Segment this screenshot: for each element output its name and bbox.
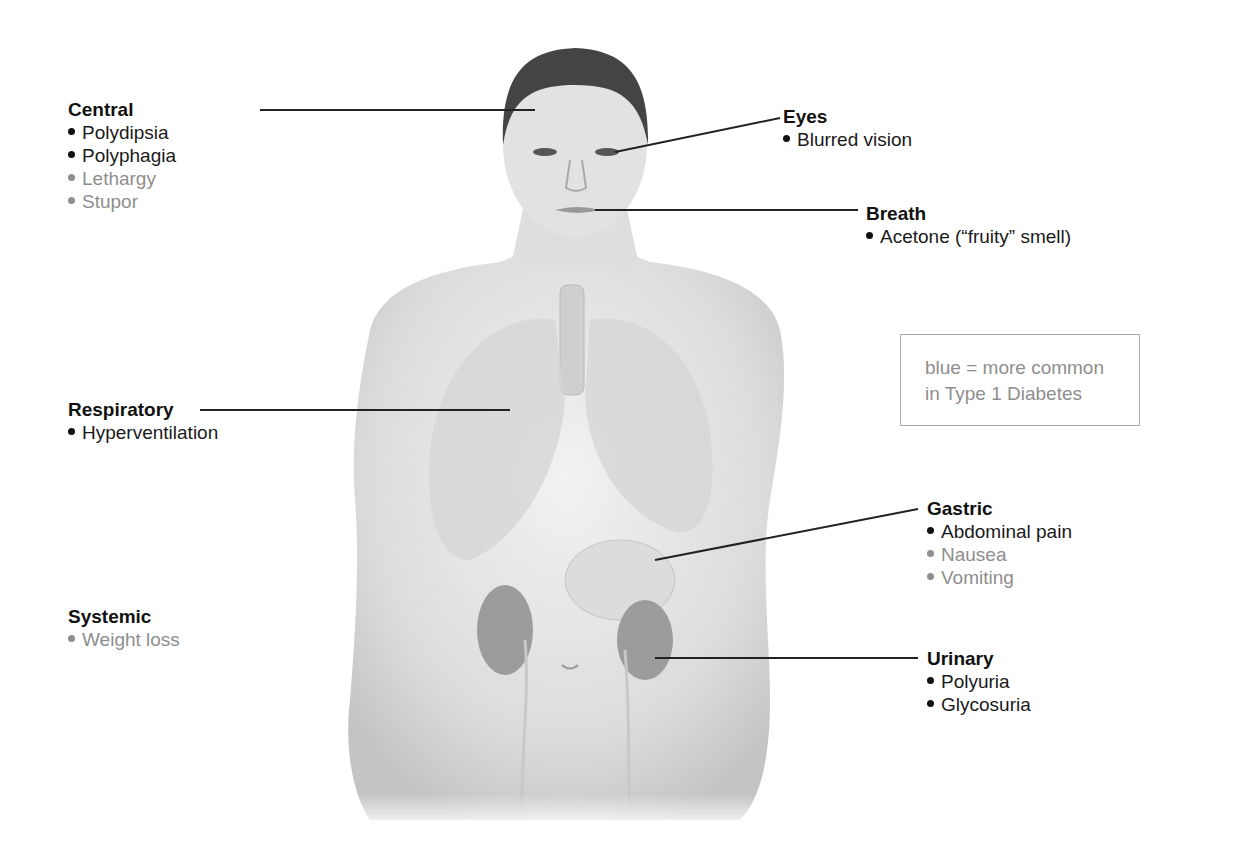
legend-box: blue = more common in Type 1 Diabetes (900, 334, 1140, 426)
bullet-icon (68, 128, 75, 135)
bullet-icon (927, 700, 934, 707)
symptom-item: Polydipsia (68, 121, 176, 144)
symptom-item: Lethargy (68, 167, 176, 190)
group-respiratory: Respiratory Hyperventilation (68, 398, 218, 444)
symptom-item: Glycosuria (927, 693, 1031, 716)
group-title: Eyes (783, 105, 912, 128)
trachea (560, 285, 584, 395)
bullet-icon (927, 527, 934, 534)
bullet-icon (68, 197, 75, 204)
symptom-item: Abdominal pain (927, 520, 1072, 543)
group-central: Central Polydipsia Polyphagia Lethargy S… (68, 98, 176, 213)
bullet-icon (927, 677, 934, 684)
symptom-item: Hyperventilation (68, 421, 218, 444)
group-title: Systemic (68, 605, 180, 628)
symptom-item: Stupor (68, 190, 176, 213)
group-systemic: Systemic Weight loss (68, 605, 180, 651)
bullet-icon (68, 174, 75, 181)
bullet-icon (927, 573, 934, 580)
bullet-icon (783, 135, 790, 142)
symptom-item: Acetone (“fruity” smell) (866, 225, 1071, 248)
group-gastric: Gastric Abdominal pain Nausea Vomiting (927, 497, 1072, 589)
left-eye (533, 148, 557, 156)
symptom-item: Polyphagia (68, 144, 176, 167)
group-title: Breath (866, 202, 1071, 225)
legend-line-2: in Type 1 Diabetes (925, 381, 1139, 407)
group-title: Gastric (927, 497, 1072, 520)
symptom-item: Polyuria (927, 670, 1031, 693)
group-urinary: Urinary Polyuria Glycosuria (927, 647, 1031, 716)
symptom-item: Vomiting (927, 566, 1072, 589)
bullet-icon (68, 635, 75, 642)
symptom-item: Blurred vision (783, 128, 912, 151)
symptom-item: Nausea (927, 543, 1072, 566)
bullet-icon (927, 550, 934, 557)
bullet-icon (866, 232, 873, 239)
group-title: Urinary (927, 647, 1031, 670)
diabetes-symptoms-diagram: Central Polydipsia Polyphagia Lethargy S… (0, 0, 1239, 860)
group-breath: Breath Acetone (“fruity” smell) (866, 202, 1071, 248)
group-title: Central (68, 98, 176, 121)
group-eyes: Eyes Blurred vision (783, 105, 912, 151)
legend-line-1: blue = more common (925, 355, 1139, 381)
bullet-icon (68, 151, 75, 158)
bullet-icon (68, 428, 75, 435)
group-title: Respiratory (68, 398, 218, 421)
symptom-item: Weight loss (68, 628, 180, 651)
